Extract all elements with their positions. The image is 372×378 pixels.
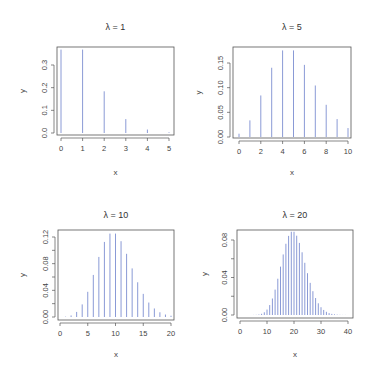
y-tick-label: 0.00 [220,308,229,323]
x-tick-label: 10 [263,327,271,336]
x-axis-label: x [114,350,118,359]
y-axis-label: y [18,89,27,93]
y-tick-label: 0.04 [41,283,50,298]
x-tick-label: 3 [124,144,128,153]
y-tick-label: 0.05 [216,105,225,120]
x-tick-label: 5 [167,144,171,153]
x-tick-label: 4 [281,147,285,156]
y-axis-label: y [18,273,27,277]
y-tick-label: 0.3 [40,60,49,70]
chart-title: λ = 5 [282,22,302,32]
x-tick-label: 0 [237,147,241,156]
x-tick-label: 10 [344,147,352,156]
y-tick-label: 0.2 [40,82,49,92]
x-tick-label: 1 [81,144,85,153]
y-axis-label: y [194,91,203,95]
x-tick-label: 6 [302,147,306,156]
chart-title: λ = 1 [106,22,126,32]
y-tick-label: 0.1 [40,105,49,115]
x-tick-label: 0 [59,144,63,153]
y-tick-label: 0.0 [40,128,49,138]
chart-title: λ = 10 [104,210,129,220]
x-axis-label: x [290,168,294,177]
y-tick-label: 0.08 [41,256,50,271]
x-tick-label: 0 [58,329,62,338]
x-tick-label: 5 [86,329,90,338]
x-tick-label: 30 [317,327,325,336]
y-tick-label: 0.00 [41,310,50,325]
x-tick-label: 10 [111,329,119,338]
y-tick-label: 0.04 [220,270,229,285]
x-axis-label: x [114,168,118,177]
x-tick-label: 2 [102,144,106,153]
x-axis-label: x [293,350,297,359]
y-tick-label: 0.15 [216,56,225,71]
y-tick-label: 0.08 [220,233,229,248]
poisson-pmf-figure: λ = 1 x y 0123450.00.10.20.3 λ = 5 x y 0… [0,0,372,378]
x-tick-label: 8 [324,147,328,156]
x-tick-label: 4 [145,144,149,153]
x-tick-label: 0 [238,327,242,336]
chart-title: λ = 20 [283,210,308,220]
x-tick-label: 40 [344,327,352,336]
y-tick-label: 0.10 [216,80,225,95]
x-tick-label: 2 [259,147,263,156]
x-tick-label: 20 [290,327,298,336]
x-tick-label: 20 [167,329,175,338]
y-tick-label: 0.00 [216,130,225,145]
y-axis-label: y [200,272,209,276]
y-tick-label: 0.12 [41,230,50,245]
x-tick-label: 15 [139,329,147,338]
